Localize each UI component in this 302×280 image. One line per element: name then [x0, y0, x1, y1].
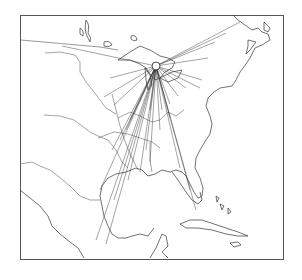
- gulf-coast: [100, 168, 154, 238]
- flow-map: [0, 0, 302, 280]
- flow-line: [128, 66, 156, 180]
- jamaica: [230, 242, 241, 247]
- flow-lines: [62, 22, 240, 244]
- lake-island-3: [104, 41, 112, 46]
- river-3: [20, 162, 100, 200]
- flow-line: [156, 66, 180, 168]
- flow-line: [140, 66, 156, 172]
- flow-line: [96, 66, 156, 240]
- pei-island: [246, 40, 256, 54]
- flow-line: [156, 66, 202, 80]
- cuba: [180, 220, 248, 236]
- lake-island-1: [85, 20, 90, 42]
- lake-island-4: [131, 36, 137, 41]
- flow-line: [156, 33, 226, 66]
- hub-marker: [152, 62, 160, 70]
- flow-line: [104, 66, 156, 97]
- flow-line: [62, 46, 156, 66]
- bahamas-1: [216, 196, 219, 202]
- river-1: [45, 52, 116, 114]
- flow-line: [112, 66, 156, 150]
- nova-scotia: [264, 22, 270, 32]
- mexico-coast: [20, 190, 84, 258]
- yucatan: [150, 234, 168, 258]
- bahamas-2: [220, 204, 224, 210]
- flow-line: [156, 42, 215, 66]
- bahamas-3: [228, 208, 231, 214]
- canada-border: [21, 40, 118, 50]
- ohio-river: [118, 110, 184, 122]
- river-2: [44, 115, 128, 168]
- lake-island-2: [80, 28, 83, 36]
- flow-line: [106, 66, 156, 244]
- flow-line: [110, 66, 156, 78]
